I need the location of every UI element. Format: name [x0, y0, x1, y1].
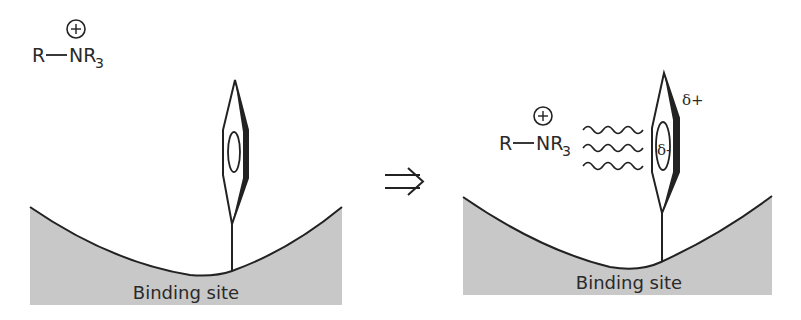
right-n-label: NR	[536, 132, 563, 154]
partial-charge-negative: δ-	[657, 141, 671, 159]
right-ammonium-ion: R NR 3	[499, 107, 571, 159]
left-r-label: R	[32, 44, 45, 66]
left-panel: Binding site R NR 3	[30, 20, 342, 305]
right-binding-site-label: Binding site	[576, 272, 682, 293]
right-panel: Binding site δ+ δ- R NR 3	[463, 73, 772, 295]
left-ammonium-ion: R NR 3	[32, 20, 104, 71]
right-subscript: 3	[562, 143, 571, 159]
partial-charge-positive: δ+	[682, 91, 704, 109]
left-subscript: 3	[95, 55, 104, 71]
left-n-label: NR	[69, 44, 96, 66]
left-binding-site-label: Binding site	[133, 282, 239, 303]
right-r-label: R	[499, 132, 512, 154]
cation-pi-diagram: Binding site R NR 3 Binding site	[0, 0, 801, 320]
wavy-interaction-lines-icon	[583, 127, 643, 170]
implies-arrow-icon	[385, 168, 423, 195]
left-aromatic-ring-icon	[223, 80, 248, 224]
